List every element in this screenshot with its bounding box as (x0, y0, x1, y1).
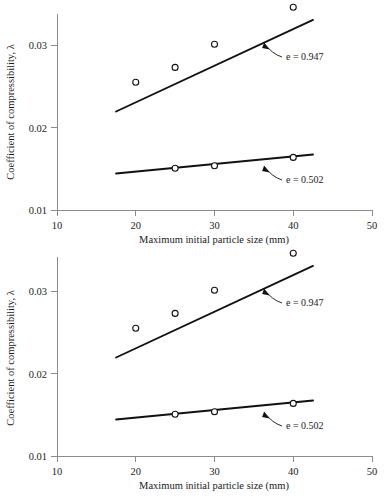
data-point (290, 154, 296, 160)
annotation-label-e0502-bottom: e = 0.502 (286, 420, 324, 431)
y-tick-label-bottom-0: 0.01 (29, 451, 47, 462)
x-tick-label-bottom-0: 10 (52, 466, 63, 477)
x-tick-label-bottom-3: 40 (288, 466, 299, 477)
data-point (290, 400, 296, 406)
annotation-label-e0502-top: e = 0.502 (286, 174, 324, 185)
plot-area-top: 0.03 0.02 0.01 10 20 30 40 50 Maximum in… (0, 0, 392, 249)
chart-panel-bottom: 0.03 0.02 0.01 10 20 30 40 50 Maximum in… (0, 249, 392, 499)
annotation-leader-e0502-top (264, 166, 282, 180)
data-point (172, 411, 178, 417)
data-point (133, 79, 139, 85)
data-point (212, 163, 218, 169)
x-tick-label-top-4: 50 (367, 220, 378, 231)
annotation-leader-e0502-bottom (264, 412, 282, 426)
annotation-label-e0947-bottom: e = 0.947 (286, 297, 324, 308)
annotation-arrow-e0502-bottom (262, 412, 270, 418)
y-tick-label-bottom-1: 0.02 (29, 369, 47, 380)
y-tick-label-bottom-2: 0.03 (29, 286, 47, 297)
data-point (172, 310, 178, 316)
y-tick-label-top-1: 0.02 (29, 123, 47, 134)
data-point (212, 409, 218, 415)
data-point (133, 325, 139, 331)
x-tick-label-bottom-1: 20 (131, 466, 142, 477)
data-point (172, 165, 178, 171)
y-axis-title-top: Coefficient of compressibility, λ (5, 43, 16, 179)
figure-stack: 0.03 0.02 0.01 10 20 30 40 50 Maximum in… (0, 0, 392, 499)
data-point (212, 287, 218, 293)
annotation-leader-e0947-top (264, 43, 282, 57)
annotation-leader-e0947-bottom (264, 289, 282, 303)
x-tick-label-bottom-4: 50 (367, 466, 378, 477)
x-tick-label-bottom-2: 30 (209, 466, 220, 477)
x-tick-label-top-1: 20 (131, 220, 142, 231)
y-tick-label-top-0: 0.01 (29, 205, 47, 216)
data-point (172, 64, 178, 70)
series-line-e0947-bottom (116, 266, 313, 358)
x-tick-label-top-0: 10 (52, 220, 63, 231)
x-axis-title-top: Maximum initial particle size (mm) (139, 234, 289, 246)
x-tick-label-top-2: 30 (209, 220, 220, 231)
annotation-arrow-e0502-top (262, 166, 270, 172)
x-tick-label-top-3: 40 (288, 220, 299, 231)
data-point (212, 41, 218, 47)
y-axis-title-bottom: Coefficient of compressibility, λ (5, 289, 16, 425)
annotation-label-e0947-top: e = 0.947 (286, 51, 324, 62)
plot-area-bottom: 0.03 0.02 0.01 10 20 30 40 50 Maximum in… (0, 249, 392, 499)
data-point (290, 250, 296, 256)
x-axis-title-bottom: Maximum initial particle size (mm) (139, 480, 289, 492)
chart-panel-top: 0.03 0.02 0.01 10 20 30 40 50 Maximum in… (0, 0, 392, 249)
y-tick-label-top-2: 0.03 (29, 40, 47, 51)
series-line-e0947-top (116, 20, 313, 112)
data-point (290, 4, 296, 10)
